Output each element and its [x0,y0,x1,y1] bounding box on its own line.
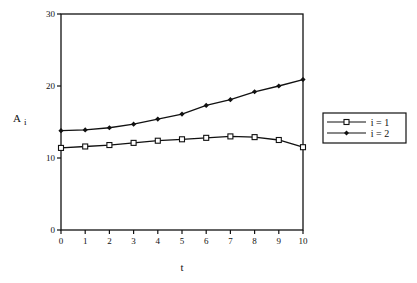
diamond-marker-icon [228,97,233,102]
square-marker-icon [107,143,112,148]
diamond-marker-icon [204,103,209,108]
x-tick-label: 8 [252,236,257,246]
square-marker-icon [155,138,160,143]
y-tick-label: 10 [46,153,56,163]
series-layer [58,77,305,151]
x-tick-label: 10 [299,236,309,246]
square-marker-icon [131,140,136,145]
svg-text:i = 2: i = 2 [371,128,389,139]
x-tick-label: 9 [277,236,282,246]
y-axis: 0102030 [46,9,61,235]
diamond-marker-icon [300,77,305,82]
x-axis-label: t [180,261,183,273]
square-marker-icon [59,145,64,150]
diamond-marker-icon [107,125,112,130]
svg-text:i = 1: i = 1 [371,117,389,128]
svg-text:A: A [13,112,21,124]
y-tick-label: 30 [46,9,56,19]
line-chart: 0102030 012345678910 t A i i = 1 i = 2 [0,0,417,283]
diamond-marker-icon [155,117,160,122]
diamond-marker-icon [131,122,136,127]
diamond-marker-icon [276,83,281,88]
square-marker-icon [204,135,209,140]
diamond-marker-icon [58,128,63,133]
x-tick-label: 1 [83,236,88,246]
diamond-marker-icon [252,89,257,94]
svg-text:i: i [24,117,27,127]
x-tick-label: 7 [228,236,233,246]
square-marker-icon [344,120,349,125]
square-marker-icon [180,137,185,142]
plot-frame [61,14,303,230]
square-marker-icon [252,135,257,140]
x-tick-label: 6 [204,236,209,246]
series-2 [58,77,305,133]
plot-border [61,14,303,230]
x-tick-label: 4 [156,236,161,246]
series-1 [59,134,306,151]
y-tick-label: 0 [51,225,56,235]
diamond-marker-icon [179,111,184,116]
x-tick-label: 0 [59,236,64,246]
square-marker-icon [301,145,306,150]
square-marker-icon [228,134,233,139]
x-axis: 012345678910 [59,230,308,246]
legend: i = 1 i = 2 [323,113,406,143]
x-tick-label: 2 [107,236,112,246]
square-marker-icon [276,138,281,143]
y-tick-label: 20 [46,81,56,91]
legend-box [323,113,406,143]
x-tick-label: 3 [131,236,136,246]
y-axis-label: A i [13,112,27,127]
diamond-marker-icon [83,127,88,132]
x-tick-label: 5 [180,236,185,246]
square-marker-icon [83,144,88,149]
